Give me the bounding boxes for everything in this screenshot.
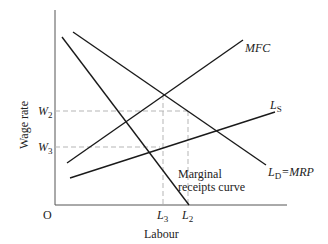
y-axis-title: Wage rate <box>17 101 31 149</box>
marginal-receipts-label: Marginal <box>178 167 222 181</box>
l3-label: L3 <box>156 208 169 224</box>
mfc-label: MFC <box>244 41 271 55</box>
w3-label: W3 <box>38 140 53 156</box>
mfc-curve <box>67 40 243 163</box>
marginal-receipts-curve <box>62 37 189 205</box>
labour-market-diagram: MFC LS LD=MRP Marginal receipts curve W2… <box>0 0 328 244</box>
l2-label: L2 <box>181 208 193 224</box>
marginal-receipts-label-2: receipts curve <box>178 180 245 194</box>
w2-label: W2 <box>38 104 53 120</box>
x-axis-title: Labour <box>144 227 179 241</box>
ls-curve <box>70 112 275 178</box>
ls-label: LS <box>269 98 282 114</box>
origin-label: O <box>43 208 52 222</box>
ld-mrp-label: LD=MRP <box>267 165 315 181</box>
ld-mrp-curve <box>73 32 266 165</box>
